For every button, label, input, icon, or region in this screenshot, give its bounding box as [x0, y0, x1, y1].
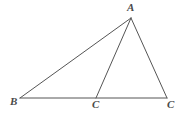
- triangle-drawing: [0, 0, 191, 113]
- geometry-figure: A B C C: [0, 0, 191, 113]
- vertex-label-middle-c: C: [92, 99, 99, 110]
- vertex-label-b: B: [10, 96, 17, 107]
- vertex-label-a: A: [127, 2, 134, 13]
- segment-b-to-a: [20, 18, 131, 98]
- segment-a-to-right-c: [131, 18, 167, 98]
- vertex-label-right-c: C: [167, 99, 174, 110]
